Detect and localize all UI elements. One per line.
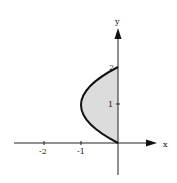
chart-svg: -2 -1 1 2 x y [0, 0, 177, 183]
tick-label-y-1: 1 [108, 100, 113, 109]
tick-label-y-2: 2 [109, 63, 114, 72]
y-axis-label: y [114, 17, 120, 26]
tick-label-x-neg2: -2 [39, 147, 47, 156]
x-axis-arrow-icon [146, 140, 157, 147]
tick-label-x-neg1: -1 [77, 147, 85, 156]
y-axis-arrow-icon [115, 28, 122, 39]
x-axis-label: x [163, 140, 168, 149]
